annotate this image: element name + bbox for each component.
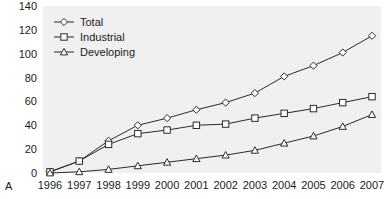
data-point-industrial (340, 99, 346, 105)
y-tick-label: 140 (19, 0, 37, 12)
data-point-industrial (281, 110, 287, 116)
legend-label-total: Total (80, 16, 103, 28)
data-point-industrial (193, 122, 199, 128)
x-tick-label: 1997 (67, 179, 91, 191)
y-tick-label: 120 (19, 24, 37, 36)
data-point-industrial (369, 93, 375, 99)
data-point-industrial (76, 158, 82, 164)
y-tick-label: 40 (25, 119, 37, 131)
x-tick-label: 1999 (126, 179, 150, 191)
x-tick-label: 2000 (155, 179, 179, 191)
chart-figure: 020406080100120140 199619971998199920002… (0, 0, 388, 199)
line-chart: 020406080100120140 199619971998199920002… (0, 0, 388, 199)
y-tick-label: 60 (25, 95, 37, 107)
y-tick-label: 100 (19, 48, 37, 60)
y-tick-label: 20 (25, 143, 37, 155)
x-tick-label: 2004 (272, 179, 296, 191)
x-tick-label: 2005 (301, 179, 325, 191)
x-tick-label: 2003 (243, 179, 267, 191)
data-point-legend-industrial (61, 34, 67, 40)
x-tick-label: 2007 (360, 179, 384, 191)
x-tick-label: 2001 (184, 179, 208, 191)
x-tick-label: 1996 (38, 179, 62, 191)
panel-label: A (5, 180, 13, 192)
legend-label-developing: Developing (80, 46, 135, 58)
data-point-industrial (105, 141, 111, 147)
data-point-industrial (164, 127, 170, 133)
legend-label-industrial: Industrial (80, 31, 125, 43)
x-tick-label: 1998 (96, 179, 120, 191)
data-point-industrial (135, 130, 141, 136)
y-tick-label: 0 (31, 167, 37, 179)
data-point-industrial (310, 105, 316, 111)
y-tick-label: 80 (25, 72, 37, 84)
data-point-industrial (222, 121, 228, 127)
data-point-industrial (252, 115, 258, 121)
x-tick-label: 2002 (213, 179, 237, 191)
x-tick-label: 2006 (330, 179, 354, 191)
